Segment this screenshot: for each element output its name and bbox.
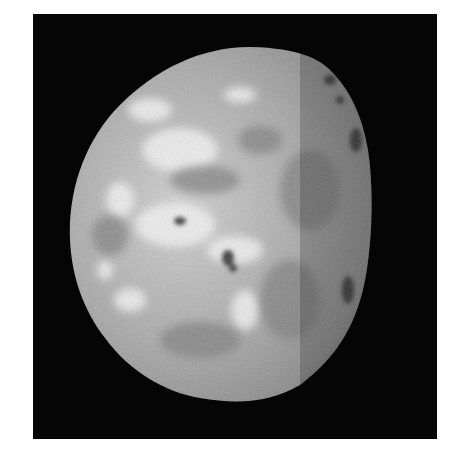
moon-disc (60, 40, 380, 410)
moon-image (0, 0, 456, 466)
